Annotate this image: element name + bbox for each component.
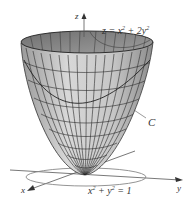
- curve-c-label: C: [148, 117, 155, 128]
- exp-2: 2: [146, 25, 149, 31]
- circle-part-2: + y: [95, 185, 111, 196]
- equation-part-1: z = x: [102, 25, 122, 36]
- paraboloid-surface: [21, 42, 153, 175]
- circle-part-3: = 1: [115, 185, 132, 196]
- surface-equation-label: z = x2 + 2y2: [102, 26, 149, 36]
- y-axis-label: y: [177, 184, 181, 193]
- curve-c-leader: [134, 110, 146, 118]
- paraboloid-diagram: [0, 0, 193, 214]
- x-axis-label: x: [21, 186, 25, 195]
- circle-equation-label: x2 + y2 = 1: [88, 186, 131, 196]
- equation-part-2: + 2y: [125, 25, 146, 36]
- paraboloid-figure: z z = x2 + 2y2 C y x x2 + y2 = 1: [0, 0, 193, 214]
- z-axis-label: z: [75, 12, 79, 21]
